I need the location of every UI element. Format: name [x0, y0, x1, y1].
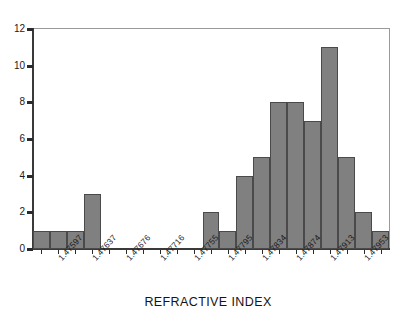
x-axis-tick [279, 250, 280, 254]
histogram-bar [304, 121, 321, 249]
x-axis-tick [381, 250, 382, 254]
x-axis-tick [211, 250, 212, 254]
y-axis-tick-label: 2 [3, 207, 25, 217]
x-axis-tick [109, 250, 110, 254]
y-axis-tick-label: 10 [3, 61, 25, 71]
histogram-bar [321, 47, 338, 249]
y-axis-tick-label: 6 [3, 134, 25, 144]
x-axis-tick [245, 250, 246, 254]
histogram-bar [270, 102, 287, 249]
histogram-bar [253, 157, 270, 249]
x-axis-tick [347, 250, 348, 254]
x-axis-tick [143, 250, 144, 254]
histogram-bar [84, 194, 101, 249]
histogram-bar [33, 231, 50, 249]
x-axis-tick [177, 250, 178, 254]
x-axis-tick [41, 250, 42, 254]
histogram-chart: 024681012 1.475971.476371.476761.477161.… [0, 0, 416, 322]
y-axis-tick-label: 8 [3, 97, 25, 107]
histogram-bar [355, 212, 372, 249]
x-axis-tick [313, 250, 314, 254]
histogram-bar [287, 102, 304, 249]
x-axis-tick [75, 250, 76, 254]
x-axis-title: REFRACTIVE INDEX [0, 295, 416, 309]
y-axis-tick-label: 4 [3, 171, 25, 181]
y-axis-tick-label: 12 [3, 24, 25, 34]
bars-layer [33, 29, 389, 249]
y-axis-tick-label: 0 [3, 244, 25, 254]
